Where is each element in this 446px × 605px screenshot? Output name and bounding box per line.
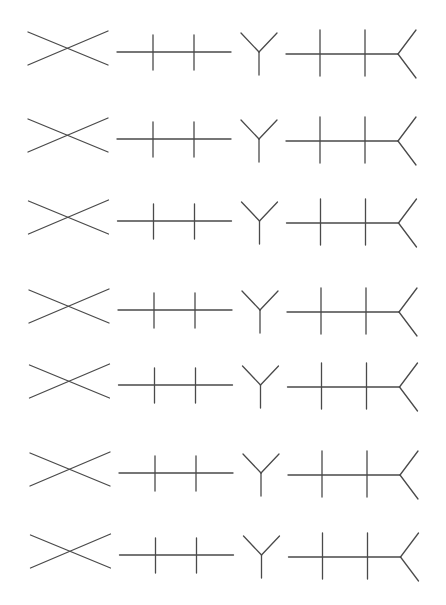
- fork-arm: [400, 387, 418, 411]
- fork-y-glyph: [244, 536, 280, 578]
- fork-arm: [241, 120, 259, 139]
- fork-arm: [260, 202, 278, 221]
- fork-arm: [400, 475, 418, 499]
- bar-two-ticks-glyph: [117, 35, 231, 70]
- fork-arm: [261, 366, 279, 385]
- fork-y-glyph: [243, 366, 279, 408]
- fork-arm: [401, 557, 419, 581]
- fork-arm: [398, 117, 416, 141]
- fork-arm: [398, 30, 416, 54]
- cross-x-glyph: [30, 452, 110, 486]
- fork-arm: [261, 454, 279, 473]
- fork-arm: [243, 366, 261, 385]
- bar-two-ticks-glyph: [118, 204, 232, 239]
- fork-arm: [260, 291, 278, 310]
- cross-x-glyph: [29, 289, 109, 323]
- bar-two-ticks-glyph: [120, 538, 234, 573]
- figure-row: [28, 117, 416, 165]
- figure-row: [28, 30, 416, 78]
- fork-arm: [400, 451, 418, 475]
- bar-forked-end-glyph: [287, 288, 417, 336]
- fork-y-glyph: [242, 202, 278, 244]
- fork-arm: [398, 141, 416, 165]
- figure-canvas: [0, 0, 446, 605]
- fork-y-glyph: [243, 454, 279, 496]
- bar-forked-end-glyph: [289, 533, 419, 581]
- bar-forked-end-glyph: [288, 363, 418, 411]
- bar-two-ticks-glyph: [119, 456, 233, 491]
- fork-arm: [259, 120, 277, 139]
- fork-arm: [243, 454, 261, 473]
- figure-row: [29, 288, 417, 336]
- bar-forked-end-glyph: [287, 199, 417, 247]
- fork-y-glyph: [242, 291, 278, 333]
- cross-x-glyph: [28, 31, 108, 65]
- fork-arm: [262, 536, 280, 555]
- figure-row: [30, 451, 418, 499]
- figure-row: [31, 533, 419, 581]
- cross-x-glyph: [28, 118, 108, 152]
- bar-two-ticks-glyph: [117, 122, 231, 157]
- bar-forked-end-glyph: [288, 451, 418, 499]
- fork-y-glyph: [241, 33, 277, 75]
- cross-x-glyph: [31, 534, 111, 568]
- fork-arm: [244, 536, 262, 555]
- bar-two-ticks-glyph: [118, 293, 232, 328]
- bar-forked-end-glyph: [286, 117, 416, 165]
- fork-arm: [241, 33, 259, 52]
- fork-arm: [401, 533, 419, 557]
- fork-arm: [399, 199, 417, 223]
- figure-row: [29, 199, 417, 247]
- fork-arm: [259, 33, 277, 52]
- fork-arm: [399, 288, 417, 312]
- bar-forked-end-glyph: [286, 30, 416, 78]
- cross-x-glyph: [30, 364, 110, 398]
- fork-y-glyph: [241, 120, 277, 162]
- figure-row: [30, 363, 418, 411]
- cross-x-glyph: [29, 200, 109, 234]
- fork-arm: [399, 312, 417, 336]
- fork-arm: [399, 223, 417, 247]
- fork-arm: [242, 202, 260, 221]
- fork-arm: [242, 291, 260, 310]
- fork-arm: [398, 54, 416, 78]
- fork-arm: [400, 363, 418, 387]
- bar-two-ticks-glyph: [119, 368, 233, 403]
